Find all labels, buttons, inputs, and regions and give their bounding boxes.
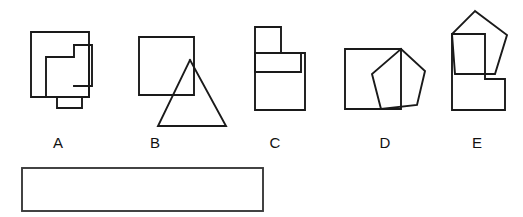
option-b-square — [139, 37, 194, 95]
option-label-a: A — [53, 134, 63, 151]
option-e-pentagon — [452, 11, 507, 74]
option-label-b: B — [150, 134, 160, 151]
option-d-figure[interactable] — [345, 49, 425, 109]
option-e-l-shaped-polygon — [452, 34, 505, 110]
option-b-figure[interactable] — [139, 37, 226, 126]
option-e-figure[interactable] — [452, 11, 507, 110]
option-a-large-square — [31, 32, 89, 97]
option-c-large-bottom-rect — [255, 53, 305, 110]
puzzle-canvas: A B C D E — [0, 0, 523, 217]
option-c-middle-horizontal-rect — [255, 53, 301, 72]
option-b-triangle — [158, 60, 226, 126]
option-label-e: E — [472, 134, 482, 151]
option-a-bottom-tab-square — [57, 97, 82, 108]
option-c-top-small-rect — [255, 27, 281, 53]
option-label-c: C — [270, 134, 281, 151]
figures-svg: A B C D E — [0, 0, 523, 217]
option-d-pentagon — [372, 49, 425, 109]
option-label-d: D — [380, 134, 391, 151]
option-a-figure[interactable] — [31, 32, 92, 108]
answer-box[interactable] — [22, 168, 263, 211]
option-a-middle-square — [46, 45, 89, 97]
option-c-figure[interactable] — [255, 27, 305, 110]
